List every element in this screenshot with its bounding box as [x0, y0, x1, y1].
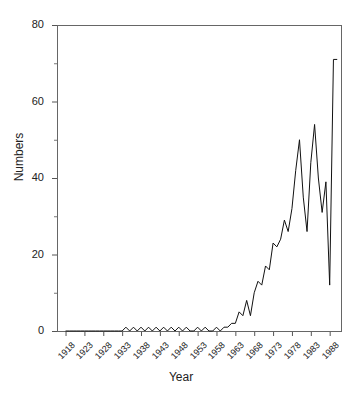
series-line-numbers	[66, 59, 338, 331]
y-tick-label: 40	[10, 171, 44, 183]
y-tick-label: 20	[10, 248, 44, 260]
y-tick-label: 60	[10, 95, 44, 107]
y-tick-label: 0	[10, 324, 44, 336]
chart-figure: Numbers Year 020406080 19181923192819331…	[0, 0, 362, 400]
chart-canvas	[0, 0, 362, 400]
y-tick-label: 80	[10, 18, 44, 30]
axis-ticks	[52, 26, 330, 337]
plot-frame	[58, 26, 342, 332]
